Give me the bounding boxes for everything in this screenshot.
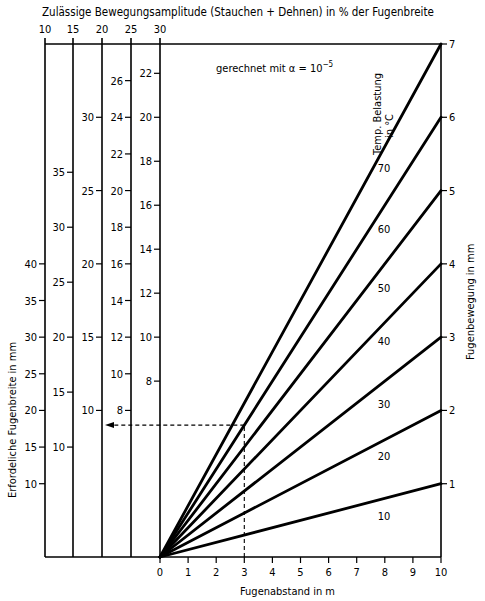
right-tick-label: 7 [449,38,455,51]
right-tick-label: 1 [449,478,455,491]
amplitude-tick-label: 26 [110,75,123,88]
x-tick-label: 8 [382,566,388,579]
amplitude-tick-label: 14 [139,243,152,256]
x-tick-label: 3 [241,566,247,579]
x-tick-label: 7 [354,566,360,579]
x-tick-label: 10 [435,566,448,579]
temperature-line-label: 70 [378,162,391,175]
amplitude-tick-label: 40 [24,258,37,271]
temperature-line-label: 40 [378,335,391,348]
amplitude-tick-label: 35 [24,295,37,308]
amplitude-tick-label: 25 [81,185,94,198]
amplitude-tick-label: 15 [24,441,37,454]
amplitude-tick-label: 20 [81,258,94,271]
amplitude-tick-label: 20 [52,331,65,344]
right-tick-label: 2 [449,404,455,417]
arrow-left-icon [105,422,114,428]
amplitude-tick-label: 10 [110,368,123,381]
temperature-line-20 [160,410,441,557]
nomogram-chart: Zulässige Bewegungsamplitude (Stauchen +… [0,0,485,601]
x-tick-label: 5 [297,566,303,579]
amplitude-tick-label: 20 [24,404,37,417]
temperature-line-50 [160,191,441,557]
right-tick-label: 6 [449,111,455,124]
right-tick-label: 5 [449,185,455,198]
amplitude-percent-label: 30 [154,23,167,36]
right-tick-label: 4 [449,258,455,271]
amplitude-tick-label: 14 [110,295,123,308]
chart-title: Zulässige Bewegungsamplitude (Stauchen +… [42,5,434,19]
amplitude-tick-label: 30 [81,111,94,124]
amplitude-tick-label: 35 [52,166,65,179]
x-tick-label: 2 [213,566,219,579]
amplitude-tick-label: 8 [117,404,123,417]
amplitude-tick-label: 15 [52,386,65,399]
temperature-line-70 [160,44,441,557]
amplitude-percent-label: 10 [39,23,52,36]
amplitude-tick-label: 10 [81,404,94,417]
amplitude-tick-label: 12 [110,331,123,344]
amplitude-tick-label: 30 [24,331,37,344]
amplitude-tick-label: 24 [110,111,123,124]
amplitude-percent-label: 15 [67,23,80,36]
x-tick-label: 4 [269,566,275,579]
left-axis-label: Erfordeliche Fugenbreite in mm [6,342,19,498]
temperature-line-10 [160,484,441,557]
x-tick-label: 0 [157,566,163,579]
amplitude-tick-label: 16 [139,199,152,212]
x-tick-label: 9 [410,566,416,579]
amplitude-tick-label: 10 [52,441,65,454]
x-axis-label: Fugenabstand in m [240,585,335,598]
amplitude-tick-label: 22 [139,67,152,80]
amplitude-tick-label: 10 [139,331,152,344]
amplitude-tick-label: 30 [52,221,65,234]
legend-title-unit: in °C [383,114,396,138]
temperature-line-label: 20 [378,450,391,463]
amplitude-tick-label: 25 [52,276,65,289]
x-tick-label: 6 [325,566,331,579]
right-axis-label: Fugenbewegung in mm [464,244,477,360]
amplitude-tick-label: 20 [139,111,152,124]
amplitude-tick-label: 25 [24,368,37,381]
amplitude-tick-label: 16 [110,258,123,271]
temperature-line-60 [160,117,441,557]
x-tick-label: 1 [185,566,191,579]
amplitude-tick-label: 15 [81,331,94,344]
amplitude-tick-label: 20 [110,185,123,198]
temperature-line-label: 50 [378,282,391,295]
right-tick-label: 3 [449,331,455,344]
amplitude-tick-label: 12 [139,287,152,300]
temperature-line-30 [160,337,441,557]
temperature-line-40 [160,264,441,557]
amplitude-tick-label: 8 [146,375,152,388]
amplitude-percent-label: 20 [96,23,109,36]
amplitude-tick-label: 10 [24,478,37,491]
temperature-line-label: 30 [378,398,391,411]
amplitude-percent-label: 25 [125,23,138,36]
amplitude-tick-label: 22 [110,148,123,161]
annotation-text: gerechnet mit α = 10−5 [216,60,333,75]
temperature-line-label: 10 [378,510,391,523]
amplitude-tick-label: 18 [139,155,152,168]
amplitude-tick-label: 18 [110,221,123,234]
temperature-line-label: 60 [378,223,391,236]
